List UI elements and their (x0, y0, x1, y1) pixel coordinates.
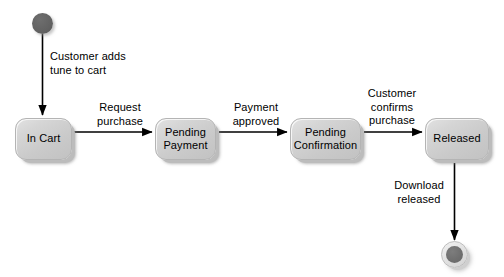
final-state-inner-dot (446, 246, 463, 263)
transition-label-pending-confirmation-to-released: Customer confirms purchase (363, 87, 421, 128)
state-diagram-canvas: In Cart Pending Payment Pending Confirma… (0, 0, 504, 277)
state-node-released[interactable]: Released (425, 118, 489, 160)
transition-label-released-to-final: Download released (389, 179, 449, 206)
state-label-pending-confirmation: Pending Confirmation (294, 126, 358, 153)
state-label-pending-payment: Pending Payment (163, 126, 207, 153)
state-label-in-cart: In Cart (27, 132, 61, 146)
state-node-pending-payment[interactable]: Pending Payment (155, 118, 216, 160)
state-label-released: Released (433, 132, 480, 146)
state-node-in-cart[interactable]: In Cart (15, 118, 72, 160)
transition-label-start-to-in-cart: Customer adds tune to cart (50, 50, 126, 77)
state-node-pending-confirmation[interactable]: Pending Confirmation (290, 118, 361, 160)
final-state-node[interactable] (441, 241, 468, 268)
transition-label-pending-payment-to-pending-confirmation: Payment approved (225, 101, 287, 128)
transition-label-in-cart-to-pending-payment: Request purchase (89, 101, 151, 128)
initial-state-node[interactable] (32, 13, 53, 34)
